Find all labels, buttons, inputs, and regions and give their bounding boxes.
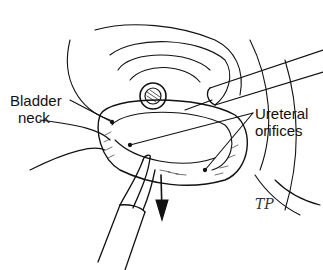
surgical-illustration: Bladder neck Ureteral orifices TP	[0, 0, 323, 270]
label-line: orifices	[255, 122, 308, 139]
tissue-fold-left	[67, 40, 110, 120]
ureteral-leader-2	[205, 113, 253, 170]
ureteral-leader-1	[130, 113, 253, 145]
label-line: neck	[10, 109, 62, 126]
label-ureteral-orifices: Ureteral orifices	[255, 105, 308, 139]
artist-signature: TP	[255, 196, 274, 212]
label-line: Ureteral	[255, 105, 308, 122]
forceps-shaft-left	[120, 160, 143, 205]
label-line: Bladder	[10, 92, 62, 109]
bladder-neck-leader	[70, 100, 112, 122]
traction-arrow-head	[156, 200, 168, 220]
retractor-top-edge	[210, 50, 323, 88]
instrument-handle	[98, 205, 120, 262]
label-bladder-neck: Bladder neck	[10, 92, 62, 126]
